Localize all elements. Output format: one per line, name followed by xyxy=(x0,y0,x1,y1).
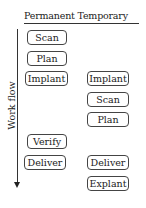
permanent-step-scan: Scan xyxy=(27,30,67,45)
temporary-step-deliver: Deliver xyxy=(87,155,129,170)
temporary-step-plan: Plan xyxy=(87,112,129,127)
temporary-step-implant: Implant xyxy=(87,71,129,86)
permanent-step-implant: Implant xyxy=(25,71,68,86)
permanent-step-verify: Verify xyxy=(27,134,67,149)
temporary-step-explant: Explant xyxy=(87,176,129,191)
arrow-down-icon xyxy=(14,182,20,188)
column-headers: Permanent Temporary xyxy=(24,10,128,21)
permanent-step-plan: Plan xyxy=(27,51,67,66)
header-divider xyxy=(24,23,139,24)
permanent-step-deliver: Deliver xyxy=(24,155,66,170)
workflow-axis-label: Work flow xyxy=(6,81,17,131)
temporary-step-scan: Scan xyxy=(87,92,129,107)
workflow-axis-line xyxy=(17,29,18,184)
